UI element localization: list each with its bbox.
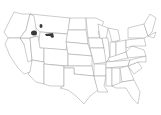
range-patch-western bbox=[31, 31, 37, 36]
state-north-dakota bbox=[68, 18, 86, 30]
state-mississippi bbox=[106, 68, 112, 86]
state-michigan bbox=[108, 28, 120, 42]
state-nebraska bbox=[66, 42, 92, 56]
state-outlines bbox=[4, 12, 156, 104]
range-patch-north-central bbox=[40, 24, 43, 28]
state-colorado bbox=[44, 48, 68, 66]
state-virginia-wv bbox=[126, 46, 146, 58]
us-map bbox=[0, 0, 161, 115]
state-iowa bbox=[88, 38, 104, 48]
state-arkansas bbox=[94, 64, 106, 76]
state-south-dakota bbox=[66, 30, 88, 44]
state-kansas bbox=[68, 54, 92, 66]
state-new-mexico bbox=[44, 64, 64, 86]
state-pennsylvania bbox=[126, 38, 146, 48]
